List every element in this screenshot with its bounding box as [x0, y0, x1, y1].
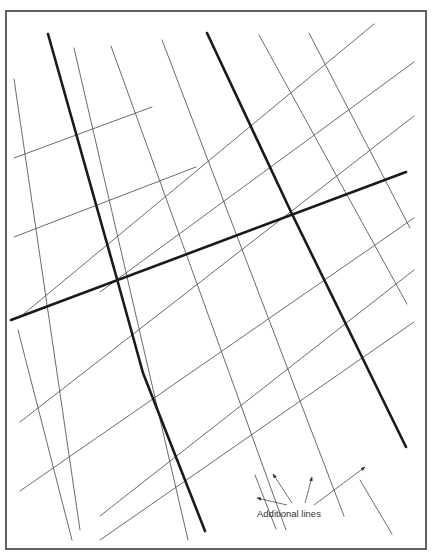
- arrow-icon: [305, 477, 312, 503]
- thick-line-right: [207, 33, 406, 447]
- grid-diagram: Additional lines: [0, 0, 434, 556]
- arrow-icon: [273, 474, 292, 503]
- grid-line: [20, 218, 414, 491]
- grid-line: [259, 35, 407, 304]
- grid-line: [162, 40, 344, 516]
- grid-line: [14, 167, 196, 237]
- grid-line: [100, 62, 414, 292]
- thick-line-horizontal: [11, 172, 406, 320]
- grid-line: [18, 330, 72, 540]
- thin-grid-lines-rising: [14, 24, 414, 540]
- thin-grid-lines-falling: [14, 33, 410, 540]
- grid-line: [74, 48, 188, 540]
- thick-line-left: [48, 34, 205, 531]
- grid-line: [20, 116, 414, 422]
- arrow-icon: [257, 498, 287, 505]
- annotation-arrows: [257, 467, 365, 505]
- additional-lines-label: Additional lines: [257, 508, 321, 519]
- grid-line: [360, 480, 392, 534]
- grid-line: [14, 107, 152, 158]
- arrow-icon: [314, 467, 365, 505]
- grid-line: [14, 79, 80, 530]
